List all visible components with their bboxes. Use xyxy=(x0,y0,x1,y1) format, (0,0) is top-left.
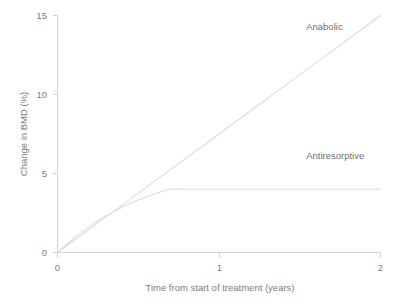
series-label-anabolic: Anabolic xyxy=(306,21,343,32)
x-axis-ticks xyxy=(58,253,381,259)
y-axis-ticks xyxy=(53,16,58,253)
x-axis-title: Time from start of treatment (years) xyxy=(145,282,294,293)
y-tick-label-0: 0 xyxy=(42,247,47,258)
x-tick-label-1: 1 xyxy=(217,262,222,273)
y-tick-label-10: 10 xyxy=(36,89,47,100)
x-tick-label-2: 2 xyxy=(378,262,383,273)
y-axis-title: Change in BMD (%) xyxy=(18,92,29,176)
series-line-antiresorptive xyxy=(58,189,381,253)
chart-svg: 0 5 10 15 0 1 2 Time from start of treat… xyxy=(0,0,399,308)
bmd-change-chart: 0 5 10 15 0 1 2 Time from start of treat… xyxy=(0,0,399,308)
series-group xyxy=(58,16,381,253)
y-tick-label-5: 5 xyxy=(42,168,47,179)
series-label-antiresorptive: Antiresorptive xyxy=(306,150,364,161)
x-tick-label-0: 0 xyxy=(55,262,60,273)
y-tick-label-15: 15 xyxy=(36,10,47,21)
series-line-anabolic xyxy=(58,16,381,253)
